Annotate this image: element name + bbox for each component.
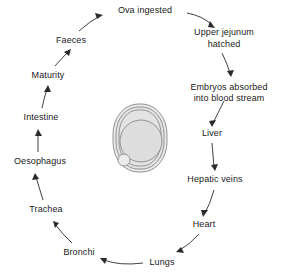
node-label-upper-jejunum-hatched: Upper jejunum hatched: [194, 27, 254, 49]
node-label-trachea: Trachea: [29, 204, 62, 214]
node-label-maturity: Maturity: [32, 70, 65, 80]
arrow-hepatic-to-heart: [201, 190, 214, 217]
arrow-trachea-to-oesophagus: [32, 173, 43, 200]
node-label-embryos-line1: Embryos absorbed: [190, 82, 267, 92]
lifecycle-diagram: Ova ingested Upper jejunum hatched Embry…: [0, 0, 284, 278]
arrow-oesophagus-to-intestine: [35, 129, 42, 152]
node-label-liver: Liver: [202, 128, 222, 138]
node-label-oesophagus: Oesophagus: [14, 156, 66, 166]
egg-vacuole: [118, 154, 130, 166]
arrow-heart-to-lungs: [176, 234, 199, 253]
lifecycle-svg: Ova ingested Upper jejunum hatched Embry…: [0, 0, 284, 278]
arrow-bronchi-to-trachea: [53, 221, 72, 243]
arrow-ova-to-jejunum: [187, 13, 215, 28]
arrow-lungs-to-bronchi: [100, 258, 143, 264]
node-label-heart: Heart: [193, 219, 216, 229]
arrow-embryos-to-liver: [209, 101, 224, 127]
node-label-intestine: Intestine: [24, 112, 59, 122]
arrow-liver-to-hepatic: [211, 143, 218, 171]
arrow-maturity-to-faeces: [55, 49, 71, 66]
node-label-bronchi: Bronchi: [63, 247, 94, 257]
arrow-intestine-to-maturity: [42, 85, 51, 108]
node-label-embryos-line2: into blood stream: [194, 93, 265, 103]
node-label-faeces: Faeces: [56, 35, 87, 45]
arrow-jejunum-to-embryos: [222, 53, 234, 77]
ovum-egg-illustration: [113, 104, 167, 172]
node-label-hepatic-veins: Hepatic veins: [187, 174, 243, 184]
node-label-upper-jejunum-line2: hatched: [208, 39, 241, 49]
node-label-lungs: Lungs: [149, 257, 174, 267]
node-label-upper-jejunum-line1: Upper jejunum: [194, 27, 254, 37]
node-label-ova-ingested: Ova ingested: [118, 5, 172, 15]
arrow-faeces-to-ova: [79, 13, 103, 31]
node-label-embryos-absorbed: Embryos absorbed into blood stream: [190, 82, 267, 103]
